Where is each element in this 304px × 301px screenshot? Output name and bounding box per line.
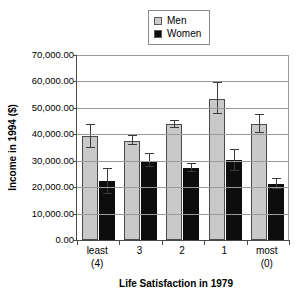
error-bar-cap-lower	[255, 132, 264, 133]
y-axis-tick-mark	[73, 240, 77, 241]
gridline	[77, 108, 289, 109]
error-bar	[259, 115, 260, 133]
plot-area	[76, 55, 289, 241]
error-bar-cap-lower	[86, 147, 95, 148]
x-tick-label-line1: most	[256, 245, 278, 256]
bar-men	[251, 124, 267, 240]
bar-women	[268, 184, 284, 240]
bar-men	[209, 99, 225, 240]
y-axis-tick-mark	[73, 81, 77, 82]
x-tick-label-line2: (4)	[76, 257, 118, 270]
y-axis-tick-mark	[73, 108, 77, 109]
error-bar-cap-upper	[230, 149, 239, 150]
error-bar-cap-upper	[103, 168, 112, 169]
y-axis-tick-mark	[73, 214, 77, 215]
x-axis-title: Life Satisfaction in 1979	[60, 278, 292, 289]
x-axis-tick-mark	[289, 240, 290, 245]
bar-women	[141, 161, 157, 240]
error-bar-cap-upper	[145, 153, 154, 154]
y-axis-tick-label: 0.00	[14, 235, 74, 245]
error-bar-cap-lower	[103, 193, 112, 194]
x-tick-label-line1: least	[87, 245, 108, 256]
error-bar-cap-upper	[255, 114, 264, 115]
y-axis-tick-labels: 0.0010,000.0020,000.0030,000.0040,000.00…	[14, 55, 74, 240]
y-axis-tick-label: 60,000.00	[14, 77, 74, 87]
bar-women	[226, 160, 242, 240]
bar-group	[119, 55, 161, 240]
gridline	[77, 134, 289, 135]
x-tick-label-line2: (0)	[246, 257, 288, 270]
error-bar-cap-lower	[230, 170, 239, 171]
bar-men	[124, 141, 140, 240]
legend-label-men: Men	[167, 16, 186, 26]
x-axis-tick-label: most(0)	[246, 244, 288, 270]
error-bar-cap-upper	[86, 124, 95, 125]
x-tick-label-line1: 2	[179, 245, 185, 256]
y-axis-tick-label: 10,000.00	[14, 209, 74, 219]
x-axis-tick-labels: least(4)321most(0)	[76, 244, 288, 278]
x-axis-tick-label: 1	[203, 244, 245, 257]
y-axis-tick-label: 50,000.00	[14, 103, 74, 113]
y-axis-tick-mark	[73, 161, 77, 162]
legend-swatch-women	[154, 30, 162, 38]
error-bar-cap-upper	[187, 163, 196, 164]
error-bar	[107, 169, 108, 193]
bar-group	[204, 55, 246, 240]
error-bar-cap-upper	[170, 120, 179, 121]
error-bar-cap-upper	[128, 135, 137, 136]
bar-men	[166, 124, 182, 240]
y-axis-tick-label: 20,000.00	[14, 182, 74, 192]
y-axis-tick-mark	[73, 55, 77, 56]
x-axis-tick-label: least(4)	[76, 244, 118, 270]
x-axis-tick-label: 3	[118, 244, 160, 257]
legend-item-women: Women	[154, 28, 201, 40]
x-axis-tick-label: 2	[161, 244, 203, 257]
legend-item-men: Men	[154, 15, 201, 27]
chart-figure: Men Women Income in 1994 ($) 0.0010,000.…	[0, 0, 304, 301]
error-bar	[217, 83, 218, 115]
bar-women	[183, 168, 199, 240]
y-axis-tick-label: 70,000.00	[14, 50, 74, 60]
error-bar-cap-lower	[187, 171, 196, 172]
gridline	[77, 81, 289, 82]
gridline	[77, 187, 289, 188]
gridline	[77, 214, 289, 215]
y-axis-tick-label: 40,000.00	[14, 130, 74, 140]
error-bar	[90, 125, 91, 148]
y-axis-tick-mark	[73, 187, 77, 188]
bar-group	[162, 55, 204, 240]
y-axis-tick-label: 30,000.00	[14, 156, 74, 166]
x-tick-label-line1: 1	[222, 245, 228, 256]
error-bar-cap-lower	[213, 113, 222, 114]
legend-swatch-men	[154, 17, 162, 25]
error-bar-cap-upper	[272, 178, 281, 179]
gridline	[77, 55, 289, 56]
error-bar-cap-lower	[128, 144, 137, 145]
y-axis-tick-mark	[73, 134, 77, 135]
bar-group	[77, 55, 119, 240]
legend-label-women: Women	[167, 29, 201, 39]
bar-group	[247, 55, 289, 240]
bar-series-container	[77, 55, 289, 240]
chart-legend: Men Women	[148, 10, 210, 45]
error-bar-cap-lower	[145, 166, 154, 167]
x-tick-label-line1: 3	[137, 245, 143, 256]
error-bar-cap-lower	[170, 127, 179, 128]
gridline	[77, 161, 289, 162]
